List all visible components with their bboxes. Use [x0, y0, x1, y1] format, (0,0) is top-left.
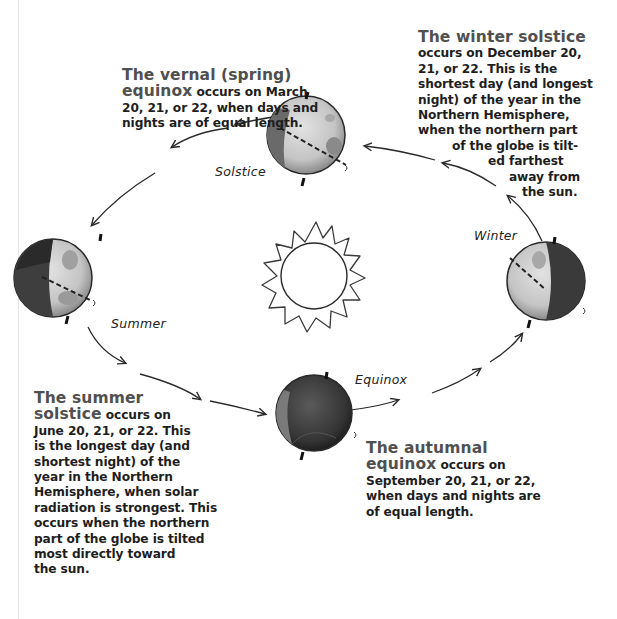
vernal-heading: The vernal (spring): [122, 66, 291, 84]
summer-line: year in the Northern: [34, 470, 217, 485]
winter-line: ed farthest: [418, 154, 593, 169]
winter-line: the sun.: [418, 185, 593, 200]
summer-line: part of the globe is tilted: [34, 532, 217, 547]
winter-line: occurs on December 20,: [418, 46, 593, 61]
vernal-equinox-text: The vernal (spring) equinox occurs on Ma…: [122, 68, 318, 132]
winter-line: night) of the year in the: [418, 93, 593, 108]
winter-line: 21, or 22. This is the: [418, 62, 593, 77]
label-summer: Summer: [111, 316, 166, 331]
winter-line: away from: [418, 170, 593, 185]
vernal-heading-2: equinox: [122, 82, 192, 100]
summer-line: occurs when the northern: [34, 516, 217, 531]
summer-line: most directly toward: [34, 547, 217, 562]
winter-line: shortest day (and longest: [418, 77, 593, 92]
winter-heading: The winter solstice: [418, 28, 586, 46]
vernal-body-start: occurs on March: [192, 85, 307, 99]
autumnal-line: of equal length.: [366, 505, 541, 520]
autumnal-line: September 20, 21, or 22,: [366, 474, 541, 489]
vernal-line: 20, 21, or 22, when days and: [122, 101, 318, 116]
label-winter: Winter: [474, 228, 517, 243]
summer-line: Hemisphere, when solar: [34, 485, 217, 500]
summer-line: radiation is strongest. This: [34, 501, 217, 516]
label-solstice: Solstice: [215, 164, 266, 179]
label-equinox: Equinox: [355, 372, 407, 387]
summer-solstice-text: The summer solstice occurs on June 20, 2…: [34, 391, 217, 578]
autumnal-equinox-text: The autumnal equinox occurs on September…: [366, 441, 541, 520]
globe-equinox-icon: [276, 372, 356, 460]
sun-icon: [262, 222, 365, 332]
summer-body-start: occurs on: [102, 408, 171, 422]
summer-heading-2: solstice: [34, 405, 102, 423]
globe-winter-icon: [507, 237, 585, 328]
globe-summer-icon: [14, 234, 101, 324]
autumnal-heading-2: equinox: [366, 455, 436, 473]
summer-line: is the longest day (and: [34, 439, 217, 454]
autumnal-heading: The autumnal: [366, 439, 488, 457]
winter-line: when the northern part: [418, 123, 593, 138]
winter-solstice-text: The winter solstice occurs on December 2…: [418, 30, 593, 200]
summer-line: shortest night) of the: [34, 455, 217, 470]
vernal-line: nights are of equal length.: [122, 116, 318, 131]
autumnal-line: when days and nights are: [366, 489, 541, 504]
winter-line: of the globe is tilt-: [418, 139, 593, 154]
winter-line: Northern Hemisphere,: [418, 108, 593, 123]
summer-heading: The summer: [34, 389, 143, 407]
summer-line: the sun.: [34, 562, 217, 577]
autumnal-body-start: occurs on: [436, 458, 505, 472]
summer-line: June 20, 21, or 22. This: [34, 424, 217, 439]
